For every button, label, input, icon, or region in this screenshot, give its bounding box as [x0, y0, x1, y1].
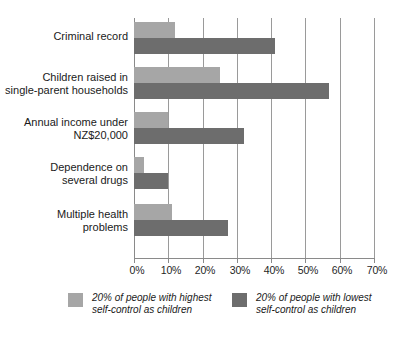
- tick-label-20: 20%: [195, 264, 215, 276]
- x-axis-line: [134, 258, 375, 259]
- legend-item-lowest-self-control: 20% of people with lowest self-control a…: [232, 292, 372, 315]
- tick-mark-60: [340, 258, 341, 263]
- bar-single-parent-households-high: [134, 67, 220, 83]
- tick-mark-70: [374, 258, 375, 263]
- bar-drug-dependence-high: [134, 157, 144, 173]
- legend-item-highest-self-control: 20% of people with highest self-control …: [68, 292, 212, 315]
- tick-label-0: 0%: [130, 264, 145, 276]
- category-axis-labels: Criminal record Children raised in singl…: [0, 18, 128, 258]
- category-label-drug-dependence: Dependence on several drugs: [2, 161, 128, 186]
- tick-mark-0: [134, 258, 135, 263]
- bar-annual-income-low: [134, 128, 244, 144]
- gridline-70: [374, 18, 375, 258]
- bar-criminal-record-high: [134, 22, 175, 38]
- category-label-annual-income: Annual income under NZ$20,000: [2, 116, 128, 141]
- tick-label-40: 40%: [264, 264, 284, 276]
- legend-label-highest-self-control: 20% of people with highest self-control …: [92, 292, 212, 315]
- category-label-single-parent-households: Children raised in single-parent househo…: [2, 71, 128, 96]
- category-label-multiple-health-problems: Multiple health problems: [2, 208, 128, 233]
- tick-label-50: 50%: [298, 264, 318, 276]
- bar-chart: Criminal record Children raised in singl…: [0, 0, 398, 338]
- tick-label-60: 60%: [332, 264, 352, 276]
- bar-annual-income-high: [134, 112, 168, 128]
- bar-criminal-record-low: [134, 38, 275, 54]
- plot-area: [134, 18, 374, 258]
- tick-mark-20: [203, 258, 204, 263]
- bar-multiple-health-problems-low: [134, 220, 228, 236]
- legend-label-lowest-self-control: 20% of people with lowest self-control a…: [256, 292, 372, 315]
- bar-drug-dependence-low: [134, 173, 168, 189]
- tick-mark-40: [271, 258, 272, 263]
- tick-mark-30: [237, 258, 238, 263]
- legend-swatch-highest-self-control: [68, 293, 83, 307]
- tick-label-10: 10%: [161, 264, 181, 276]
- legend-swatch-lowest-self-control: [232, 293, 247, 307]
- tick-mark-10: [168, 258, 169, 263]
- tick-mark-50: [305, 258, 306, 263]
- bar-multiple-health-problems-high: [134, 204, 172, 220]
- tick-label-70: 70%: [367, 264, 387, 276]
- gridline-60: [340, 18, 341, 258]
- gridline-50: [305, 18, 306, 258]
- tick-label-30: 30%: [230, 264, 250, 276]
- category-label-criminal-record: Criminal record: [2, 30, 128, 43]
- gridline-40: [271, 18, 272, 258]
- chart-legend: 20% of people with highest self-control …: [0, 292, 398, 338]
- bar-single-parent-households-low: [134, 83, 329, 99]
